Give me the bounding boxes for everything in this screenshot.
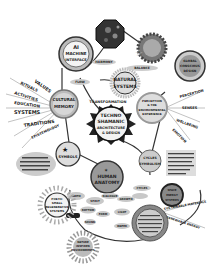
node-sun-top: ☆	[135, 34, 166, 62]
svg-text:SYSTEMS: SYSTEMS	[165, 199, 179, 202]
svg-text:SYMBOLS: SYMBOLS	[59, 155, 78, 159]
right-text-block	[166, 150, 196, 176]
svg-text:INSPIRED: INSPIRED	[76, 245, 91, 248]
svg-text:FORM: FORM	[99, 213, 108, 216]
svg-text:CONSCIOUS: CONSCIOUS	[180, 64, 200, 68]
svg-text:EXPERIENCE: EXPERIENCE	[142, 112, 162, 116]
node-perception: PERCEPTION & THE ENVIRONMENTAL EXPERIENC…	[137, 93, 167, 123]
svg-text:SOUND: SOUND	[85, 221, 96, 224]
svg-text:TECHNO: TECHNO	[101, 113, 122, 118]
svg-text:GLOBAL: GLOBAL	[183, 59, 196, 63]
node-natural-systems: NATURAL SYSTEMS	[111, 69, 139, 97]
svg-text:BALANCE: BALANCE	[134, 66, 150, 70]
node-human-anatomy: ✶ HUMAN ANATOMY	[91, 161, 123, 193]
svg-text:DESIGN: DESIGN	[184, 69, 197, 73]
right-rays: PERCEPTION SENSES WELLBEING EMOTION	[165, 89, 205, 144]
svg-text:RHYTHM: RHYTHM	[82, 209, 95, 212]
svg-text:HUMAN: HUMAN	[97, 174, 116, 179]
svg-text:ENERGY: ENERGY	[166, 194, 178, 197]
svg-text:& THE: & THE	[147, 103, 157, 107]
svg-text:CYCLES: CYCLES	[143, 156, 157, 160]
node-ai-machine-interface: AI MACHINE INTERFACE	[59, 37, 93, 71]
svg-text:ENVIRONMENTS: ENVIRONMENTS	[71, 249, 95, 252]
ray-label-energy: RENEWABLE ENERGY	[166, 215, 201, 230]
svg-text:SYSTEMS: SYSTEMS	[113, 84, 137, 89]
star-icon: ☆	[135, 48, 143, 58]
star-icon: ★	[62, 146, 68, 153]
star-icon: ☆	[88, 96, 94, 103]
node-space-energy: SPACE ENERGY SYSTEMS	[161, 184, 183, 206]
node-cycles: CYCLES SYMBOLISM	[139, 150, 161, 172]
svg-text:HARMONY: HARMONY	[95, 60, 113, 64]
left-text-blob	[16, 152, 56, 176]
transformation-label: TRANSFORMATION	[90, 100, 127, 104]
svg-text:NATURE: NATURE	[77, 241, 89, 244]
ray-label-senses: SENSES	[182, 106, 198, 110]
node-poetic-systems: POETIC SMALL REGENERATIVE SYSTEMS	[40, 188, 74, 222]
svg-text:SYMBOLISM: SYMBOLISM	[139, 162, 161, 166]
node-center: TECHNO SHAMANIC ARCHITECTURE & DESIGN TR…	[86, 96, 136, 145]
node-crystal	[96, 20, 124, 48]
svg-text:WATER: WATER	[117, 225, 127, 228]
mind-map-diagram: VALUES RITUALS ACTIVITIES EDUCATION SYST…	[0, 0, 224, 278]
ray-label-emotion: EMOTION	[171, 128, 187, 144]
svg-text:MACHINE: MACHINE	[66, 51, 87, 56]
ray-label-systems: SYSTEMS	[14, 109, 41, 115]
svg-text:AI: AI	[73, 44, 79, 50]
svg-text:NATURAL: NATURAL	[113, 77, 137, 82]
node-energy-symbols: ★ SYMBOLS	[56, 142, 80, 166]
diagram-canvas: VALUES RITUALS ACTIVITIES EDUCATION SYST…	[0, 0, 224, 278]
node-top-right: GLOBAL CONSCIOUS DESIGN	[175, 51, 205, 81]
svg-text:SPACE: SPACE	[167, 189, 176, 192]
svg-text:DIALOGUE: DIALOGUE	[103, 195, 118, 198]
node-sacred-geometry	[132, 205, 168, 241]
svg-text:INTERFACE: INTERFACE	[65, 58, 87, 62]
svg-text:GROWTH: GROWTH	[119, 198, 132, 201]
ray-label-perception: PERCEPTION	[179, 89, 204, 99]
svg-text:SYSTEMS: SYSTEMS	[50, 209, 65, 213]
star-icon: ✶	[104, 167, 108, 173]
svg-text:CULTURAL: CULTURAL	[53, 97, 76, 102]
svg-text:MEMORY: MEMORY	[54, 104, 74, 109]
svg-text:ANATOMY: ANATOMY	[94, 180, 120, 185]
svg-text:SHAMANIC: SHAMANIC	[97, 119, 125, 124]
svg-text:SPIRIT: SPIRIT	[90, 200, 100, 203]
svg-text:ARCHITECTURE: ARCHITECTURE	[97, 126, 126, 130]
svg-text:& DESIGN: & DESIGN	[102, 131, 120, 135]
left-rays: VALUES RITUALS ACTIVITIES EDUCATION SYST…	[6, 78, 60, 148]
node-nature-inspired: NATURE INSPIRED ENVIRONMENTS	[69, 233, 97, 261]
svg-text:LIGHT: LIGHT	[118, 211, 127, 214]
svg-text:CYCLES: CYCLES	[137, 187, 148, 190]
node-cultural-memory: CULTURAL MEMORY	[50, 90, 78, 118]
svg-text:FLOW: FLOW	[75, 80, 85, 84]
